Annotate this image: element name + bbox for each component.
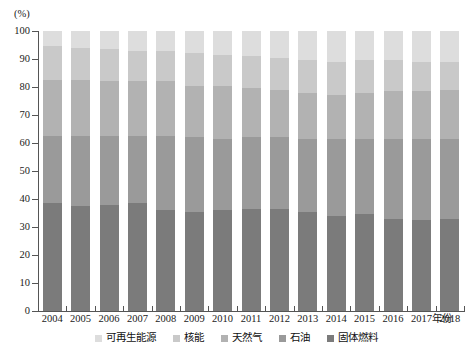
bar-segment[interactable]	[327, 31, 346, 62]
x-tick-mark	[38, 306, 39, 312]
bar-segment[interactable]	[71, 80, 90, 136]
bar-segment[interactable]	[298, 212, 317, 311]
bar-segment[interactable]	[100, 136, 119, 205]
bar-segment[interactable]	[412, 220, 431, 311]
bar-segment[interactable]	[185, 137, 204, 211]
bar-segment[interactable]	[43, 136, 62, 203]
bar-segment[interactable]	[298, 31, 317, 60]
bar-segment[interactable]	[270, 31, 289, 58]
bar-column[interactable]	[270, 31, 289, 311]
bar-segment[interactable]	[213, 31, 232, 55]
bar-segment[interactable]	[327, 139, 346, 216]
legend-item[interactable]: 可再生能源	[95, 333, 156, 344]
bar-segment[interactable]	[384, 219, 403, 311]
bar-segment[interactable]	[100, 31, 119, 49]
bar-segment[interactable]	[71, 31, 90, 48]
legend-item[interactable]: 核能	[173, 333, 204, 344]
bar-segment[interactable]	[327, 216, 346, 311]
bar-segment[interactable]	[298, 139, 317, 212]
bar-segment[interactable]	[43, 80, 62, 136]
bar-segment[interactable]	[128, 31, 147, 51]
bar-segment[interactable]	[185, 53, 204, 85]
bar-segment[interactable]	[412, 62, 431, 91]
bar-segment[interactable]	[156, 81, 175, 136]
bar-segment[interactable]	[43, 203, 62, 311]
bar-segment[interactable]	[213, 86, 232, 139]
bar-segment[interactable]	[156, 31, 175, 51]
bar-segment[interactable]	[270, 90, 289, 138]
bar-column[interactable]	[298, 31, 317, 311]
bar-column[interactable]	[440, 31, 459, 311]
bar-segment[interactable]	[384, 31, 403, 60]
legend-item[interactable]: 石油	[279, 333, 310, 344]
bar-segment[interactable]	[128, 136, 147, 203]
bar-segment[interactable]	[100, 205, 119, 311]
bar-segment[interactable]	[71, 48, 90, 80]
bar-segment[interactable]	[440, 90, 459, 139]
bar-segment[interactable]	[100, 81, 119, 136]
bar-segment[interactable]	[185, 212, 204, 311]
bar-segment[interactable]	[156, 51, 175, 82]
bar-column[interactable]	[412, 31, 431, 311]
bar-column[interactable]	[213, 31, 232, 311]
x-tick-label: 2011	[241, 314, 262, 325]
bar-segment[interactable]	[242, 88, 261, 137]
bar-segment[interactable]	[384, 60, 403, 91]
bar-column[interactable]	[128, 31, 147, 311]
bar-segment[interactable]	[327, 95, 346, 138]
bar-segment[interactable]	[384, 91, 403, 139]
bar-segment[interactable]	[355, 214, 374, 311]
bar-segment[interactable]	[128, 81, 147, 136]
bar-column[interactable]	[156, 31, 175, 311]
bar-segment[interactable]	[242, 56, 261, 88]
bar-segment[interactable]	[440, 139, 459, 219]
bar-segment[interactable]	[156, 136, 175, 210]
bar-column[interactable]	[43, 31, 62, 311]
bar-column[interactable]	[185, 31, 204, 311]
bar-segment[interactable]	[185, 31, 204, 53]
bar-column[interactable]	[355, 31, 374, 311]
bar-column[interactable]	[71, 31, 90, 311]
bar-segment[interactable]	[440, 31, 459, 62]
bar-column[interactable]	[100, 31, 119, 311]
bar-segment[interactable]	[412, 91, 431, 139]
bar-segment[interactable]	[242, 209, 261, 311]
bar-segment[interactable]	[440, 219, 459, 311]
bar-segment[interactable]	[128, 203, 147, 311]
bar-segment[interactable]	[100, 49, 119, 81]
bar-segment[interactable]	[412, 31, 431, 62]
bar-segment[interactable]	[270, 58, 289, 90]
bar-column[interactable]	[242, 31, 261, 311]
bar-column[interactable]	[384, 31, 403, 311]
bar-segment[interactable]	[43, 46, 62, 80]
bar-segment[interactable]	[355, 139, 374, 215]
bar-segment[interactable]	[71, 206, 90, 311]
bar-segment[interactable]	[384, 139, 403, 219]
bar-segment[interactable]	[185, 86, 204, 138]
bar-segment[interactable]	[43, 31, 62, 46]
bar-segment[interactable]	[355, 60, 374, 92]
bar-segment[interactable]	[213, 139, 232, 210]
bar-segment[interactable]	[298, 93, 317, 139]
x-tick-label: 2018	[439, 314, 460, 325]
bar-segment[interactable]	[440, 62, 459, 90]
legend-item[interactable]: 固体燃料	[327, 333, 378, 344]
bar-segment[interactable]	[355, 31, 374, 60]
bar-segment[interactable]	[242, 137, 261, 208]
bar-segment[interactable]	[355, 93, 374, 139]
y-tick-label: 10	[4, 278, 30, 289]
bar-segment[interactable]	[412, 139, 431, 220]
bar-column[interactable]	[327, 31, 346, 311]
bar-segment[interactable]	[270, 209, 289, 311]
legend-item[interactable]: 天然气	[221, 333, 262, 344]
bar-segment[interactable]	[156, 210, 175, 311]
bar-segment[interactable]	[213, 55, 232, 86]
bar-segment[interactable]	[298, 60, 317, 92]
bar-segment[interactable]	[327, 62, 346, 96]
bar-segment[interactable]	[270, 137, 289, 208]
bar-segment[interactable]	[213, 210, 232, 311]
bar-segment[interactable]	[128, 51, 147, 82]
y-tick-mark	[32, 87, 38, 88]
bar-segment[interactable]	[71, 136, 90, 206]
bar-segment[interactable]	[242, 31, 261, 56]
